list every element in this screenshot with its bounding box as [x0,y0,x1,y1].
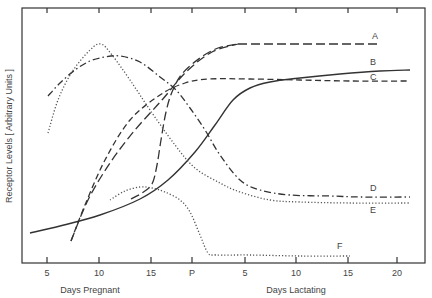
curve-label-e: E [370,205,376,215]
tick-label: 15 [343,268,353,278]
x-axis-label: Days Lactating [266,285,326,295]
plot-frame [22,8,425,263]
curve-label-b: B [370,57,376,67]
x-axis-labels: Days PregnantDays Lactating [60,285,326,295]
x-axis-ticks: 51015P5101520 [44,8,402,278]
y-axis-label: Receptor Levels [ Arbitrary Units ] [4,69,14,203]
tick-label: 5 [44,268,49,278]
curve-a [71,44,238,241]
curve-label-f: F [337,241,343,251]
tick-label: P [189,268,195,278]
curve-label-d: D [370,183,377,193]
curve-c [71,79,410,241]
tick-label: 10 [291,268,301,278]
curve-b [30,70,410,233]
curve-label-c: C [370,72,377,82]
x-axis-label: Days Pregnant [60,285,120,295]
curves [30,44,410,256]
curve-a-rise [131,44,238,199]
curve-e [48,44,410,203]
tick-label: 5 [242,268,247,278]
tick-label: 20 [392,268,402,278]
curve-labels: ABCDEF [337,31,378,251]
curve-f [110,187,350,256]
curve-label-a: A [372,31,378,41]
tick-label: 15 [146,268,156,278]
tick-label: 10 [94,268,104,278]
receptor-levels-chart: 51015P5101520 ABCDEF Receptor Levels [ A… [0,0,432,298]
